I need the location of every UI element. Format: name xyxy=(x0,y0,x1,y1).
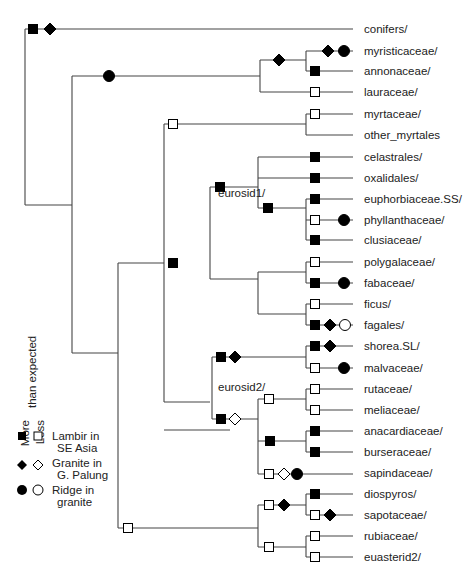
filled-circle-icon xyxy=(17,485,27,495)
leaf-label: celastrales/ xyxy=(364,151,423,163)
leaf-label: oxalidales/ xyxy=(364,172,419,184)
filled-diamond-icon xyxy=(324,319,336,331)
open-square-icon xyxy=(311,258,320,267)
filled-square-icon xyxy=(311,67,320,76)
filled-square-icon xyxy=(217,415,226,424)
legend-row-granite: Granite in G. Palung xyxy=(17,457,108,481)
filled-diamond-icon xyxy=(322,45,334,57)
open-square-icon xyxy=(311,385,320,394)
filled-square-icon xyxy=(266,437,275,446)
filled-square-icon xyxy=(311,153,320,162)
filled-circle-icon xyxy=(339,278,350,289)
legend-label-line1: Ridge in xyxy=(52,484,94,496)
legend-label-line1: Granite in xyxy=(52,457,102,469)
filled-square-icon xyxy=(311,279,320,288)
filled-diamond-icon xyxy=(17,460,27,470)
clade-label-eurosid1: eurosid1/ xyxy=(218,187,266,199)
leaf-label: myristicaceae/ xyxy=(364,45,438,57)
filled-square-icon xyxy=(29,25,38,34)
open-square-icon xyxy=(311,553,320,562)
filled-diamond-icon xyxy=(229,351,241,363)
legend-label-line2: SE Asia xyxy=(57,442,98,454)
open-square-icon xyxy=(265,501,274,510)
open-square-icon xyxy=(169,120,178,129)
filled-circle-icon xyxy=(339,215,350,226)
filled-square-icon xyxy=(311,490,320,499)
leaf-label: myrtaceae/ xyxy=(364,108,422,120)
open-circle-icon xyxy=(340,320,351,331)
clade-label-eurosid2: eurosid2/ xyxy=(218,381,266,393)
leaf-label: clusiaceae/ xyxy=(364,234,422,246)
filled-diamond-icon xyxy=(324,340,336,352)
open-diamond-icon xyxy=(33,460,43,470)
filled-diamond-icon xyxy=(278,499,290,511)
open-square-icon xyxy=(311,300,320,309)
filled-square-icon xyxy=(169,259,178,268)
open-square-icon xyxy=(34,432,42,440)
open-square-icon xyxy=(265,543,274,552)
leaf-label: fabaceae/ xyxy=(364,277,415,289)
leaf-label: conifers/ xyxy=(364,23,408,35)
leaf-label: sapotaceae/ xyxy=(364,509,427,521)
filled-diamond-icon xyxy=(273,54,285,66)
filled-square-icon xyxy=(311,236,320,245)
leaf-label: rutaceae/ xyxy=(364,383,413,395)
filled-circle-icon xyxy=(104,71,115,82)
filled-circle-icon xyxy=(339,363,350,374)
filled-square-icon xyxy=(311,342,320,351)
open-square-icon xyxy=(311,216,320,225)
open-square-icon xyxy=(311,88,320,97)
leaf-label: meliaceae/ xyxy=(364,404,420,416)
open-square-icon xyxy=(265,470,274,479)
legend-label-line1: Lambir in xyxy=(52,430,99,442)
legend: than expected More Less Lambir in SE Asi… xyxy=(17,336,108,508)
filled-circle-icon xyxy=(339,46,350,57)
open-square-icon xyxy=(311,364,320,373)
open-square-icon xyxy=(265,395,274,404)
leaf-label: phyllanthaceae/ xyxy=(364,214,445,226)
leaf-label: shorea.SL/ xyxy=(364,340,420,352)
leaf-label: annonaceae/ xyxy=(364,65,431,77)
legend-row-ridge: Ridge in granite xyxy=(17,484,94,508)
leaf-label: fagales/ xyxy=(364,319,405,331)
filled-square-icon xyxy=(311,427,320,436)
filled-square-icon xyxy=(311,195,320,204)
leaf-label: rubiaceae/ xyxy=(364,530,419,542)
filled-square-icon xyxy=(217,353,226,362)
filled-square-icon xyxy=(18,432,26,440)
open-circle-icon xyxy=(33,485,43,495)
leaf-label: other_myrtales xyxy=(364,129,440,141)
open-square-icon xyxy=(311,532,320,541)
phylogenetic-tree: conifers/myristicaceae/annonaceae/laurac… xyxy=(0,0,471,581)
leaf-label: euphorbiaceae.SS/ xyxy=(364,193,463,205)
leaf-label: anacardiaceae/ xyxy=(364,425,443,437)
leaf-label: diospyros/ xyxy=(364,488,417,500)
leaf-label: burseraceae/ xyxy=(364,446,432,458)
leaf-label: polygalaceae/ xyxy=(364,256,436,268)
leaf-label: euasterid2/ xyxy=(364,551,422,563)
filled-square-icon xyxy=(264,204,273,213)
filled-square-icon xyxy=(311,174,320,183)
leaf-label: sapindaceae/ xyxy=(364,467,433,479)
open-square-icon xyxy=(124,524,133,533)
leaf-label: ficus/ xyxy=(364,298,392,310)
open-diamond-icon xyxy=(278,468,290,480)
open-diamond-icon xyxy=(229,413,241,425)
filled-diamond-icon xyxy=(324,509,336,521)
legend-label-line2: G. Palung xyxy=(57,469,108,481)
legend-label-line2: granite xyxy=(57,496,92,508)
filled-square-icon xyxy=(311,321,320,330)
leaf-label: malvaceae/ xyxy=(364,362,424,374)
leaf-label: lauraceae/ xyxy=(364,86,419,98)
filled-circle-icon xyxy=(292,469,303,480)
filled-diamond-icon xyxy=(44,23,56,35)
legend-axis-title: than expected xyxy=(26,336,38,408)
leaf-labels: conifers/myristicaceae/annonaceae/laurac… xyxy=(364,23,463,563)
filled-square-icon xyxy=(311,448,320,457)
open-square-icon xyxy=(311,406,320,415)
open-square-icon xyxy=(311,110,320,119)
open-square-icon xyxy=(311,511,320,520)
